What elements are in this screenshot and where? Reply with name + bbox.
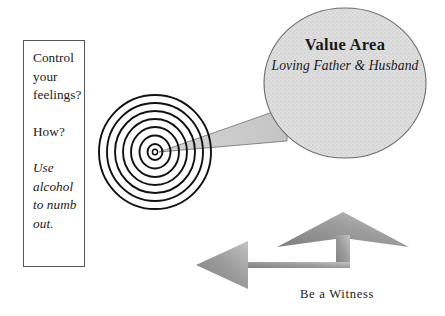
box-line-alcohol: alcohol	[33, 178, 84, 197]
box-line-your: your	[33, 68, 84, 87]
box-line-control: Control	[33, 49, 84, 68]
box-spacer-1	[33, 105, 84, 123]
be-a-witness-caption: Be a Witness	[300, 287, 374, 302]
elbow-arrow-shape	[196, 212, 409, 289]
control-feelings-box-content: Control your feelings? How? Use alcohol …	[24, 41, 84, 233]
box-line-to-numb: to numb	[33, 196, 84, 215]
value-area-bubble-shape	[264, 8, 426, 158]
spiral-rings	[99, 95, 211, 209]
box-line-use: Use	[33, 159, 84, 178]
box-line-out: out.	[33, 215, 84, 234]
control-feelings-box: Control your feelings? How? Use alcohol …	[23, 40, 85, 267]
box-spacer-2	[33, 141, 84, 159]
box-line-feelings: feelings?	[33, 86, 84, 105]
box-line-how: How?	[33, 123, 84, 142]
